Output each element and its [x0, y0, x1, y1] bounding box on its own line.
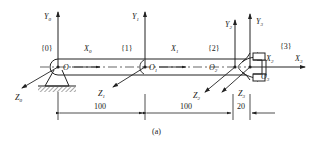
y1-label: Y1	[132, 12, 139, 22]
z1-axis	[113, 67, 145, 87]
frame-2-label: {2}	[208, 44, 220, 53]
x3-label: X3	[294, 54, 303, 64]
z0-label: Z0	[15, 93, 22, 103]
z3-label: Z3	[238, 89, 245, 99]
z3-axis	[222, 67, 250, 92]
x0-label: X0	[83, 44, 92, 54]
frame-1-label: {1}	[121, 44, 133, 53]
figure-caption: (a)	[152, 127, 161, 136]
robot-arm-diagram: Y0 {0} X0 O Z0 Y1 {1} X1 O1 Z1 Y2 {2} X2…	[0, 0, 317, 142]
x1-label: X1	[170, 44, 178, 54]
x2-label: X2	[265, 54, 274, 64]
o3-label: O3	[261, 72, 270, 82]
frame-1: Y1 {1} X1 O1 Z1	[98, 12, 186, 99]
frame-0-label: {0}	[41, 44, 53, 53]
o2-label: O2	[209, 63, 218, 73]
dim-1-2: 100	[180, 102, 192, 111]
o1-label: O1	[149, 63, 157, 73]
frame-3-label: {3}	[280, 42, 292, 51]
dim-0-1: 100	[94, 102, 106, 111]
z1-label: Z1	[98, 89, 105, 99]
ground-hatch	[38, 87, 76, 92]
z0-axis	[22, 67, 58, 88]
z2-label: Z2	[193, 91, 200, 101]
frame-0: Y0 {0} X0 O Z0	[15, 12, 100, 103]
o0-label: O	[63, 63, 69, 72]
y2-label: Y2	[225, 20, 232, 30]
dim-2-3: 20	[237, 102, 245, 111]
y3-label: Y3	[256, 17, 263, 27]
y0-label: Y0	[44, 12, 51, 22]
